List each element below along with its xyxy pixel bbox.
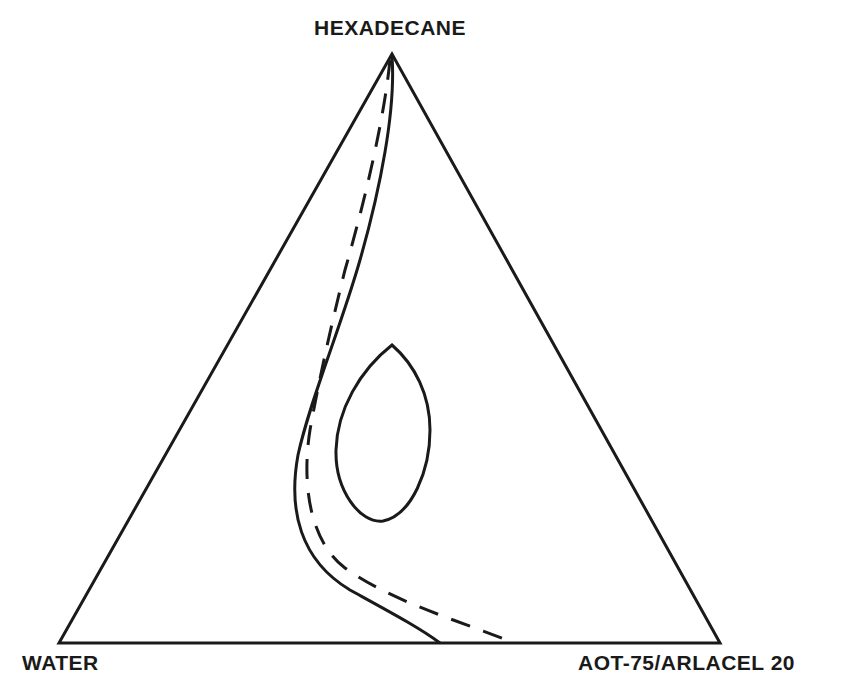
vertex-label-hexadecane: HEXADECANE — [314, 16, 466, 40]
phase-boundary-dashed — [307, 60, 507, 640]
vertex-label-water: WATER — [22, 651, 99, 675]
closed-region-loop — [336, 345, 430, 521]
vertex-label-surfactant: AOT-75/ARLACEL 20 — [578, 651, 795, 675]
ternary-diagram — [0, 0, 868, 699]
phase-boundary-solid — [295, 56, 440, 643]
